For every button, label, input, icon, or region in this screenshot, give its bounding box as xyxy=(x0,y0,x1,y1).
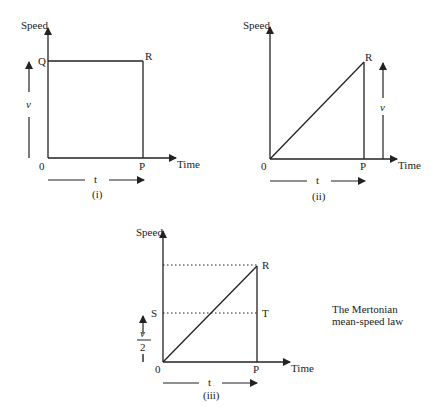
caption: (ii) xyxy=(312,190,326,203)
x-axis-label: Time xyxy=(177,158,200,170)
point-R-label: R xyxy=(365,51,373,63)
line-OR xyxy=(270,62,364,159)
annotation: The Mertonian mean-speed law xyxy=(332,303,403,327)
y-axis-label: Speed xyxy=(243,19,270,31)
point-P-label: P xyxy=(253,363,259,375)
caption: (i) xyxy=(92,188,103,201)
diagram-iii: Speed Time 0 R S T P v 2 t (iii) xyxy=(136,226,314,402)
speed-arrow-label-denominator: 2 xyxy=(140,341,146,353)
time-arrow-label: t xyxy=(316,174,319,186)
caption: (iii) xyxy=(203,389,220,402)
speed-arrow-label: v xyxy=(380,101,385,113)
origin-label: 0 xyxy=(155,363,161,375)
annotation-line-2: mean-speed law xyxy=(332,315,403,327)
origin-label: 0 xyxy=(39,160,45,172)
y-axis-label: Speed xyxy=(21,19,48,31)
y-axis-label: Speed xyxy=(136,226,163,238)
time-arrow-label: t xyxy=(94,173,97,185)
diagram-ii: Speed Time 0 R P v t (ii) xyxy=(243,19,421,203)
mean-speed-diagrams: Speed Time 0 Q R P v t (i) Speed Time 0 … xyxy=(0,0,433,416)
speed-arrow-label: v xyxy=(26,98,31,110)
point-R-label: R xyxy=(262,259,270,271)
point-Q-label: Q xyxy=(38,55,46,67)
origin-label: 0 xyxy=(261,160,267,172)
point-R-label: R xyxy=(145,50,153,62)
diagram-i: Speed Time 0 Q R P v t (i) xyxy=(21,19,200,201)
time-arrow-label: t xyxy=(208,376,211,388)
annotation-line-1: The Mertonian xyxy=(332,303,403,315)
point-P-label: P xyxy=(360,160,366,172)
x-axis-label: Time xyxy=(291,362,314,374)
x-axis-label: Time xyxy=(398,159,421,171)
line-OR xyxy=(163,266,257,362)
point-P-label: P xyxy=(139,160,145,172)
point-S-label: S xyxy=(151,307,157,319)
point-T-label: T xyxy=(262,307,269,319)
speed-arrow-label-numerator: v xyxy=(140,327,145,339)
